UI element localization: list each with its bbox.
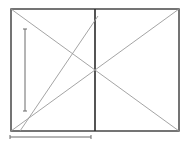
geometric-diagram [0, 0, 186, 147]
diagonal-steep [20, 16, 98, 131]
